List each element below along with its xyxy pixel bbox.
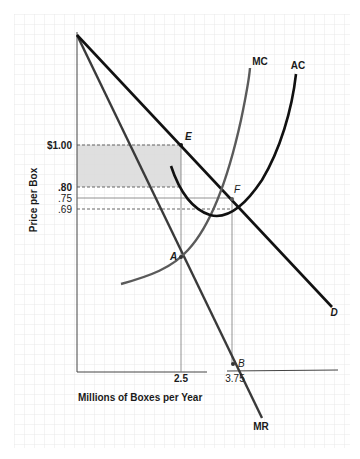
y-axis-title: Price per Box (28, 167, 39, 232)
mc-label: MC (252, 56, 268, 67)
profit-area (77, 145, 181, 187)
point-f-marker (230, 197, 234, 201)
point-b-marker (231, 362, 235, 366)
y-tick-1-00: $1.00 (47, 140, 72, 151)
point-a-label: A (169, 251, 177, 262)
x-tick-3-75: 3.75 (225, 373, 245, 384)
y-tick-0-75: .75 (58, 193, 72, 204)
d-label: D (330, 307, 337, 318)
point-e-label: E (185, 131, 192, 142)
monopoly-chart: $1.00 .80 .75 .69 2.5 3.75 Price per Box… (0, 0, 360, 459)
point-b-label: B (238, 358, 245, 369)
point-e-marker (179, 143, 183, 147)
x-tick-2-5: 2.5 (174, 373, 188, 384)
y-tick-0-69: .69 (58, 204, 72, 215)
x-axis-title: Millions of Boxes per Year (78, 392, 202, 403)
point-a-marker (179, 255, 183, 259)
point-f-label: F (234, 184, 241, 195)
ac-label: AC (291, 60, 305, 71)
y-tick-0-80: .80 (58, 182, 72, 193)
mr-label: MR (253, 421, 269, 432)
